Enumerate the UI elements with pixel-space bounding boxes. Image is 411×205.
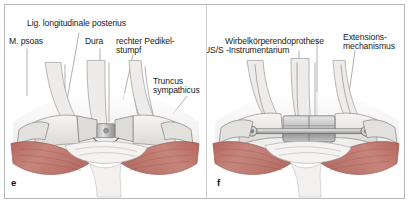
label-dura: Dura bbox=[85, 37, 103, 47]
figure-frame: Lig. longitudinale posterius M. psoas Du… bbox=[4, 4, 405, 199]
label-us-s-instrumentarium: US/S -Instrumentarium bbox=[206, 46, 289, 56]
label-m-psoas: M. psoas bbox=[9, 37, 43, 47]
label-lig-longitudinale-posterius: Lig. longitudinale posterius bbox=[27, 19, 126, 29]
tissue-corridor-e bbox=[89, 163, 121, 197]
figure-panel-f: Wirbelkörperendoprothese US/S -Instrumen… bbox=[206, 5, 407, 198]
panel-letter-e: e bbox=[11, 177, 16, 188]
anatomical-illustration-e bbox=[5, 5, 206, 198]
label-extensionsmechanismus-cont: mechanismus bbox=[343, 42, 395, 52]
tissue-corridor-f bbox=[291, 163, 321, 197]
figure-panel-e: Lig. longitudinale posterius M. psoas Du… bbox=[5, 5, 206, 198]
panel-letter-f: f bbox=[217, 177, 220, 188]
psoas-bundles-e bbox=[45, 60, 157, 123]
label-truncus-sympathicus-cont: sympathicus bbox=[153, 86, 200, 96]
label-rechter-pedikelstumpf-cont: stumpf bbox=[116, 46, 141, 56]
